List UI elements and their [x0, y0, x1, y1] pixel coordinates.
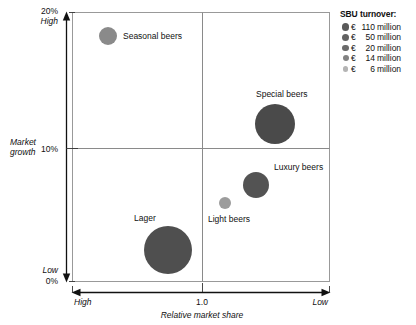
legend-unit-6: million [377, 64, 401, 74]
legend-unit-20: million [377, 43, 401, 53]
legend-dot-14-wrap [340, 55, 351, 61]
legend-amount-110: 110 [358, 22, 377, 32]
legend-dot-14 [343, 55, 349, 61]
legend-item-6[interactable]: € 6 million [340, 64, 416, 75]
legend-dot-110-wrap [340, 23, 351, 31]
y-axis-top-tick: High [41, 16, 59, 26]
legend-amount-50: 50 [358, 32, 377, 42]
legend-item-14[interactable]: € 14 million [340, 53, 416, 64]
x-axis-arrow [72, 289, 331, 296]
legend: SBU turnover: € 110 million € 50 million… [340, 9, 416, 74]
legend-currency-110: € [351, 22, 358, 32]
legend-dot-110 [342, 23, 350, 31]
y-axis-mid-value: 10% [41, 144, 58, 154]
legend-title: SBU turnover: [340, 9, 416, 19]
bcg-matrix-chart: 20% High Market growth 10% Low 0% High 1… [0, 0, 416, 325]
legend-dot-6 [343, 66, 349, 72]
legend-unit-14: million [377, 53, 401, 63]
legend-currency-50: € [351, 32, 358, 42]
legend-dot-50 [342, 34, 349, 41]
bubble-luxury-beers[interactable] [243, 172, 269, 198]
legend-amount-14: 14 [358, 53, 377, 63]
bubble-lager[interactable] [144, 226, 192, 274]
legend-dot-6-wrap [340, 66, 351, 72]
y-axis-bottom-value: 0% [46, 276, 59, 286]
legend-currency-20: € [351, 43, 358, 53]
legend-dot-20-wrap [340, 45, 351, 52]
legend-item-20[interactable]: € 20 million [340, 43, 416, 54]
legend-item-50[interactable]: € 50 million [340, 32, 416, 43]
y-axis-top-value: 20% [41, 6, 58, 16]
bubble-label-light-beers: Light beers [208, 214, 250, 224]
x-axis-right-tick: Low [312, 297, 328, 307]
plot-frame [73, 13, 330, 282]
legend-dot-20 [342, 45, 349, 52]
y-axis-title-line1: Market [10, 137, 37, 147]
legend-currency-6: € [351, 64, 358, 74]
bubble-special-beers[interactable] [255, 104, 295, 144]
x-axis-title: Relative market share [161, 310, 244, 320]
legend-dot-50-wrap [340, 34, 351, 41]
bubble-label-special-beers: Special beers [256, 89, 308, 99]
y-axis-arrow [63, 12, 70, 283]
legend-unit-110: million [377, 22, 401, 32]
bubble-label-lager: Lager [134, 213, 156, 223]
legend-currency-14: € [351, 53, 358, 63]
legend-amount-20: 20 [358, 43, 377, 53]
legend-unit-50: million [377, 32, 401, 42]
y-axis-title-line2: growth [10, 147, 36, 157]
bubble-seasonal-beers[interactable] [99, 27, 117, 45]
x-axis-center-tick: 1.0 [196, 297, 208, 307]
x-axis-left-tick: High [74, 297, 92, 307]
legend-amount-6: 6 [358, 64, 377, 74]
bubble-label-luxury-beers: Luxury beers [274, 162, 323, 172]
y-axis-bottom-tick: Low [42, 265, 58, 275]
bubble-light-beers[interactable] [219, 197, 231, 209]
legend-item-110[interactable]: € 110 million [340, 22, 416, 33]
bubble-label-seasonal-beers: Seasonal beers [123, 31, 182, 41]
